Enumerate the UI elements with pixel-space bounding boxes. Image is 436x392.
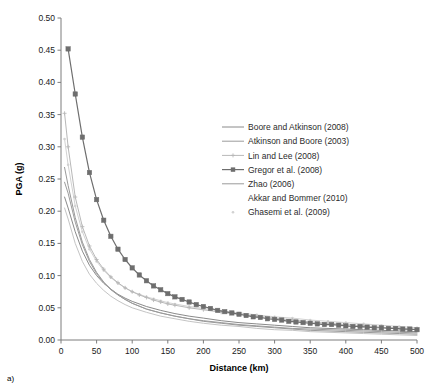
series-marker (308, 321, 312, 325)
series-marker (80, 135, 84, 139)
series-marker (201, 304, 205, 308)
legend-entry-label: Zhao (2006) (248, 179, 294, 189)
x-axis-title: Distance (km) (209, 363, 268, 373)
series-marker (301, 320, 305, 324)
legend-marker-sample (231, 153, 235, 157)
legend-entry-label: Lin and Lee (2008) (248, 151, 320, 161)
series-marker (166, 291, 170, 295)
legend-marker-sample (232, 211, 235, 214)
y-tick-label: 0.50 (38, 13, 55, 23)
series-marker (351, 324, 355, 328)
y-tick-label: 0.30 (38, 142, 55, 152)
series-marker (223, 309, 227, 313)
series-marker (73, 92, 77, 96)
series-marker (258, 315, 262, 319)
series-marker (130, 266, 134, 270)
series-marker (294, 320, 298, 324)
series-marker (272, 317, 276, 321)
x-tick-label: 350 (303, 346, 317, 356)
x-tick-label: 250 (232, 346, 246, 356)
y-tick-label: 0.20 (38, 206, 55, 216)
x-tick-label: 450 (374, 346, 388, 356)
y-tick-label: 0.40 (38, 77, 55, 87)
x-tick-label: 50 (92, 346, 102, 356)
x-tick-label: 300 (268, 346, 282, 356)
legend-marker-sample (231, 167, 235, 171)
chart-canvas: 0.000.050.100.150.200.250.300.350.400.45… (0, 0, 436, 392)
y-axis: 0.000.050.100.150.200.250.300.350.400.45… (14, 13, 61, 345)
x-tick-label: 500 (410, 346, 424, 356)
series-line (65, 113, 417, 329)
series-marker (67, 164, 70, 167)
series-marker (144, 279, 148, 283)
legend-entry-label: Atkinson and Boore (2003) (248, 136, 349, 146)
series-marker (173, 295, 177, 299)
series-marker (244, 313, 248, 317)
series-marker (109, 234, 113, 238)
series-marker (265, 317, 269, 321)
x-tick-label: 0 (59, 346, 64, 356)
series-marker (415, 327, 419, 331)
x-tick-label: 200 (196, 346, 210, 356)
series-marker (251, 315, 255, 319)
y-tick-label: 0.10 (38, 271, 55, 281)
series-line (65, 139, 417, 328)
series-marker (66, 47, 70, 51)
series-marker (116, 247, 120, 251)
series-marker (287, 319, 291, 323)
legend-entry-label: Akkar and Bommer (2010) (248, 193, 348, 203)
series-marker (63, 138, 66, 141)
series-marker (280, 318, 284, 322)
series-marker (372, 326, 376, 330)
series-marker (401, 327, 405, 331)
y-tick-label: 0.35 (38, 110, 55, 120)
series-marker (194, 302, 198, 306)
series-marker (336, 323, 340, 327)
series-line (65, 197, 417, 332)
legend-entry-label: Boore and Atkinson (2008) (248, 122, 349, 132)
series-marker (237, 312, 241, 316)
y-tick-label: 0.25 (38, 174, 55, 184)
series-marker (315, 322, 319, 326)
y-axis-title: PGA (g) (14, 162, 24, 195)
legend-entry-label: Ghasemi et al. (2009) (248, 207, 330, 217)
y-tick-label: 0.05 (38, 303, 55, 313)
series-marker (123, 257, 127, 261)
series-marker (344, 324, 348, 328)
series-marker (358, 324, 362, 328)
series-marker (393, 326, 397, 330)
series-boore-and-atkinson-2008 (65, 197, 417, 332)
series-line (65, 182, 417, 333)
series-marker (322, 322, 326, 326)
series-line (68, 49, 417, 330)
x-tick-label: 400 (339, 346, 353, 356)
series-marker (81, 231, 84, 234)
x-tick-label: 100 (125, 346, 139, 356)
series-marker (74, 205, 77, 208)
series-marker (66, 145, 70, 149)
series-marker (180, 297, 184, 301)
series-marker (329, 322, 333, 326)
series-marker (208, 306, 212, 310)
series-marker (130, 290, 134, 294)
series-marker (386, 326, 390, 330)
legend: Boore and Atkinson (2008)Atkinson and Bo… (222, 122, 349, 217)
series-atkinson-and-boore-2003 (65, 182, 417, 333)
series-lin-and-lee-2008 (63, 111, 419, 331)
figure-panel: 0.000.050.100.150.200.250.300.350.400.45… (0, 0, 436, 392)
panel-label: a) (7, 374, 14, 383)
y-tick-label: 0.15 (38, 238, 55, 248)
series-marker (102, 218, 106, 222)
x-tick-label: 150 (161, 346, 175, 356)
x-axis: 050100150200250300350400450500Distance (… (59, 340, 425, 373)
legend-entry-label: Gregor et al. (2008) (248, 165, 322, 175)
series-marker (365, 325, 369, 329)
series-marker (187, 300, 191, 304)
series-marker (230, 311, 234, 315)
series-marker (137, 273, 141, 277)
series-marker (408, 327, 412, 331)
y-tick-label: 0.00 (38, 335, 55, 345)
series-marker (215, 308, 219, 312)
series-marker (151, 284, 155, 288)
series-marker (87, 170, 91, 174)
